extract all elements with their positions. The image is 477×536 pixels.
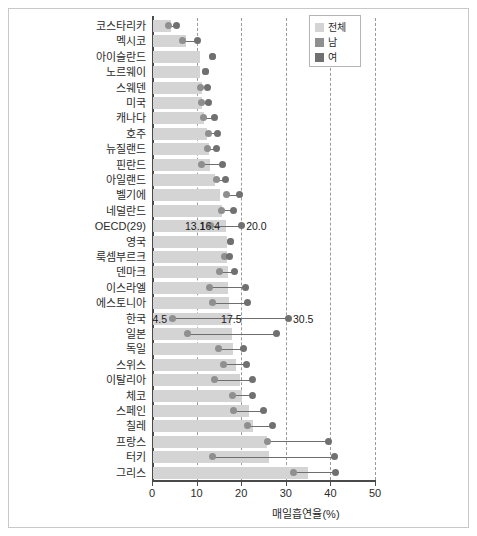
category-label-20: 일본 — [0, 326, 146, 342]
value-annotation: 20.0 — [246, 218, 266, 234]
male-dot — [223, 191, 230, 198]
total-bar — [153, 467, 308, 479]
male-dot — [230, 407, 237, 414]
female-dot — [226, 253, 233, 260]
chart-row: 아이슬란드 — [0, 49, 477, 65]
legend-swatch-icon — [315, 53, 324, 62]
total-bar — [153, 420, 253, 432]
chart-legend: 전체남여 — [309, 15, 361, 67]
legend-item-1[interactable]: 남 — [315, 35, 355, 49]
x-tick-label-50: 50 — [369, 487, 381, 499]
category-label-14: 영국 — [0, 234, 146, 250]
value-annotation: 4.5 — [152, 311, 167, 327]
category-label-25: 스페인 — [0, 403, 146, 419]
male-dot — [209, 299, 216, 306]
male-dot — [290, 469, 297, 476]
category-label-27: 프랑스 — [0, 434, 146, 450]
chart-row: 벨기에 — [0, 187, 477, 203]
chart-row: 덴마크 — [0, 264, 477, 280]
chart-row: 독일 — [0, 341, 477, 357]
chart-row: 터키 — [0, 449, 477, 465]
male-dot — [205, 130, 212, 137]
total-bar — [153, 174, 215, 186]
category-label-18: 에스토니아 — [0, 295, 146, 311]
chart-row: 그리스 — [0, 465, 477, 481]
category-label-1: 멕시코 — [0, 33, 146, 49]
female-dot — [194, 37, 201, 44]
category-label-23: 이탈리아 — [0, 372, 146, 388]
total-bar — [153, 189, 220, 201]
total-bar — [153, 236, 227, 248]
total-bar — [153, 251, 227, 263]
x-tick-label-20: 20 — [235, 487, 247, 499]
category-label-7: 호주 — [0, 126, 146, 142]
category-label-12: 네덜란드 — [0, 203, 146, 219]
female-dot — [273, 330, 280, 337]
category-label-8: 뉴질랜드 — [0, 141, 146, 157]
x-tick-0 — [152, 482, 153, 486]
female-dot — [244, 299, 251, 306]
total-bar — [153, 112, 204, 124]
female-dot — [249, 392, 256, 399]
male-dot — [169, 315, 176, 322]
female-dot — [202, 68, 209, 75]
legend-swatch-icon — [315, 38, 324, 47]
category-label-4: 스웨덴 — [0, 80, 146, 96]
x-tick-30 — [286, 482, 287, 486]
x-tick-label-10: 10 — [190, 487, 202, 499]
chart-row: 이탈리아 — [0, 372, 477, 388]
gender-connector — [294, 472, 336, 473]
chart-row: 스웨덴 — [0, 80, 477, 96]
total-bar — [153, 66, 200, 78]
chart-row: 핀란드 — [0, 157, 477, 173]
chart-row: 네덜란드 — [0, 203, 477, 219]
category-label-21: 독일 — [0, 341, 146, 357]
legend-label: 여 — [328, 52, 337, 63]
male-dot — [198, 99, 205, 106]
female-dot — [238, 222, 245, 229]
male-dot — [229, 392, 236, 399]
chart-row: 노르웨이 — [0, 64, 477, 80]
category-label-9: 핀란드 — [0, 157, 146, 173]
x-tick-20 — [241, 482, 242, 486]
legend-label: 전체 — [328, 22, 346, 33]
category-label-0: 코스타리카 — [0, 18, 146, 34]
chart-row: 체코 — [0, 388, 477, 404]
male-dot — [197, 84, 204, 91]
category-label-2: 아이슬란드 — [0, 49, 146, 65]
legend-item-2[interactable]: 여 — [315, 50, 355, 64]
female-dot — [325, 438, 332, 445]
female-dot — [260, 407, 267, 414]
chart-row: 칠레 — [0, 418, 477, 434]
female-dot — [227, 238, 234, 245]
female-dot — [173, 22, 180, 29]
male-dot — [213, 176, 220, 183]
category-label-10: 아일랜드 — [0, 172, 146, 188]
category-label-6: 캐나다 — [0, 110, 146, 126]
chart-row: 캐나다 — [0, 110, 477, 126]
x-tick-label-30: 30 — [280, 487, 292, 499]
legend-item-0[interactable]: 전체 — [315, 20, 355, 34]
chart-figure: 코스타리카멕시코아이슬란드노르웨이스웨덴미국캐나다호주뉴질랜드핀란드아일랜드벨기… — [0, 0, 477, 536]
female-dot — [332, 469, 339, 476]
male-dot — [165, 22, 172, 29]
category-label-29: 그리스 — [0, 465, 146, 481]
x-tick-50 — [375, 482, 376, 486]
male-dot — [218, 207, 225, 214]
gender-connector — [210, 287, 246, 288]
x-tick-label-0: 0 — [149, 487, 155, 499]
female-dot — [285, 315, 292, 322]
female-dot — [204, 84, 211, 91]
category-label-15: 룩셈부르크 — [0, 249, 146, 265]
male-dot — [204, 145, 211, 152]
female-dot — [214, 130, 221, 137]
female-dot — [236, 191, 243, 198]
x-tick-label-40: 40 — [324, 487, 336, 499]
x-tick-10 — [197, 482, 198, 486]
chart-row: 뉴질랜드 — [0, 141, 477, 157]
female-dot — [249, 376, 256, 383]
female-dot — [231, 268, 238, 275]
female-dot — [213, 145, 220, 152]
chart-row: 호주 — [0, 126, 477, 142]
total-bar — [153, 143, 209, 155]
